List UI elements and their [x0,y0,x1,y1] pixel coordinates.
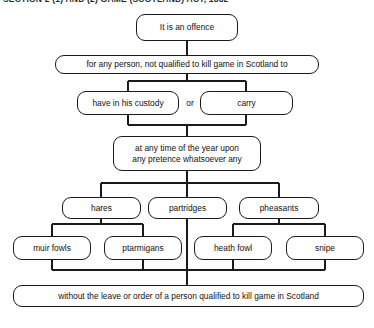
node-at-any-time-of-the-year[interactable]: at any time of the year upon any pretenc… [113,136,261,171]
node-label: pheasants [260,203,299,214]
node-for-any-person[interactable]: for any person, not qualified to kill ga… [55,55,319,74]
node-label: partridges [169,203,206,214]
node-label: without the leave or order of a person q… [58,291,319,302]
flowchart-canvas: SECTION 2 (1) AND (2) GAME (SCOTLAND) AC… [0,0,374,328]
node-label: It is an offence [160,22,214,33]
node-muir-fowls[interactable]: muir fowls [13,236,91,260]
node-have-in-his-custody[interactable]: have in his custody [77,91,179,115]
node-label: ptarmigans [122,243,163,254]
node-without-the-leave-or-order[interactable]: without the leave or order of a person q… [13,285,364,307]
node-label: snipe [315,243,335,254]
node-pheasants[interactable]: pheasants [239,197,319,219]
node-label: heath fowl [214,243,252,254]
node-label: for any person, not qualified to kill ga… [86,59,287,70]
node-label: carry [237,98,256,109]
connector-label-or-text: or [186,98,193,108]
node-label: muir fowls [33,243,71,254]
node-heath-fowl[interactable]: heath fowl [194,236,272,260]
node-ptarmigans[interactable]: ptarmigans [104,236,182,260]
node-partridges[interactable]: partridges [148,197,227,219]
node-label: hares [91,203,112,214]
node-hares[interactable]: hares [62,197,141,219]
node-it-is-an-offence[interactable]: It is an offence [136,14,238,41]
node-carry[interactable]: carry [200,91,293,115]
connector-label-or: or [182,91,198,115]
node-label: have in his custody [92,98,163,109]
node-label: at any time of the year upon any pretenc… [132,143,241,165]
node-snipe[interactable]: snipe [286,236,364,260]
